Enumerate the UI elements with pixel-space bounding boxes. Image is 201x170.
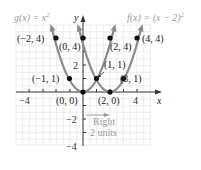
- g-label: g(x) = x2: [14, 11, 50, 24]
- label-point: (0, 4): [59, 41, 81, 53]
- label-point: (1, 1): [104, 59, 126, 71]
- annotation-units: 2 units: [90, 127, 117, 138]
- label-point: (2, 0): [98, 95, 120, 107]
- label-point: (2, 4): [110, 41, 132, 53]
- f-label: f(x) = (x − 2)2: [127, 11, 184, 24]
- tick-y-neg2: −2: [66, 114, 77, 125]
- label-point: (3, 1): [120, 73, 142, 85]
- label-point: (0, 0): [56, 95, 78, 107]
- graph: g(x) = x2 f(x) = (x − 2)2 y x −4 4 2 −2 …: [0, 0, 201, 170]
- label-point: (4, 4): [142, 33, 164, 45]
- y-axis-arrow-icon: [81, 15, 86, 22]
- tick-y-neg4: −4: [66, 141, 77, 152]
- x-axis-arrow-icon: [155, 90, 162, 95]
- tick-x-neg4: −4: [19, 95, 30, 106]
- y-axis-label: y: [73, 12, 79, 23]
- annotation-right: Right: [93, 116, 115, 127]
- tick-x-4: 4: [133, 95, 138, 106]
- tick-y-2: 2: [73, 60, 78, 71]
- label-point: (−1, 1): [32, 73, 59, 85]
- x-axis-label: x: [156, 95, 162, 106]
- label-point: (−2, 4): [17, 33, 44, 45]
